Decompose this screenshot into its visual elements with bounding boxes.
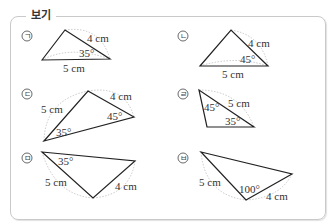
marker-6: ㅂ — [178, 153, 188, 163]
marker-4: ㄹ — [178, 89, 188, 99]
svg-text:ㄴ: ㄴ — [180, 32, 187, 41]
svg-text:ㅂ: ㅂ — [180, 154, 187, 163]
svg-text:ㅁ: ㅁ — [24, 154, 31, 163]
label-2a: 4 cm — [248, 37, 270, 49]
label-2c: 5 cm — [222, 68, 244, 80]
label-4c: 35° — [225, 115, 240, 127]
label-5a: 35° — [58, 155, 73, 167]
label-1b: 35° — [79, 47, 94, 59]
label-4b: 45° — [204, 101, 219, 113]
label-1a: 4 cm — [87, 32, 109, 44]
label-3d: 35° — [56, 126, 71, 138]
marker-1: ㄱ — [22, 31, 32, 41]
label-6c: 4 cm — [266, 190, 288, 202]
label-3b: 4 cm — [110, 90, 132, 102]
marker-2: ㄴ — [178, 31, 188, 41]
label-5c: 4 cm — [115, 180, 137, 192]
svg-text:ㄱ: ㄱ — [24, 32, 31, 41]
svg-text:ㄹ: ㄹ — [180, 90, 187, 99]
label-1c: 5 cm — [63, 62, 85, 74]
label-2b: 45° — [240, 53, 255, 65]
label-6a: 5 cm — [199, 176, 221, 188]
label-3a: 5 cm — [41, 103, 63, 115]
marker-5: ㅁ — [22, 153, 32, 163]
triangles-diagram: ㄱ 4 cm 35° 5 cm ㄴ 4 cm 45° 5 cm ㄷ 5 cm 4… — [0, 0, 331, 224]
label-4a: 5 cm — [228, 97, 250, 109]
marker-3: ㄷ — [22, 89, 32, 99]
svg-text:ㄷ: ㄷ — [24, 90, 31, 99]
label-5b: 5 cm — [45, 176, 67, 188]
label-3c: 45° — [107, 110, 122, 122]
label-6b: 100° — [239, 183, 260, 195]
